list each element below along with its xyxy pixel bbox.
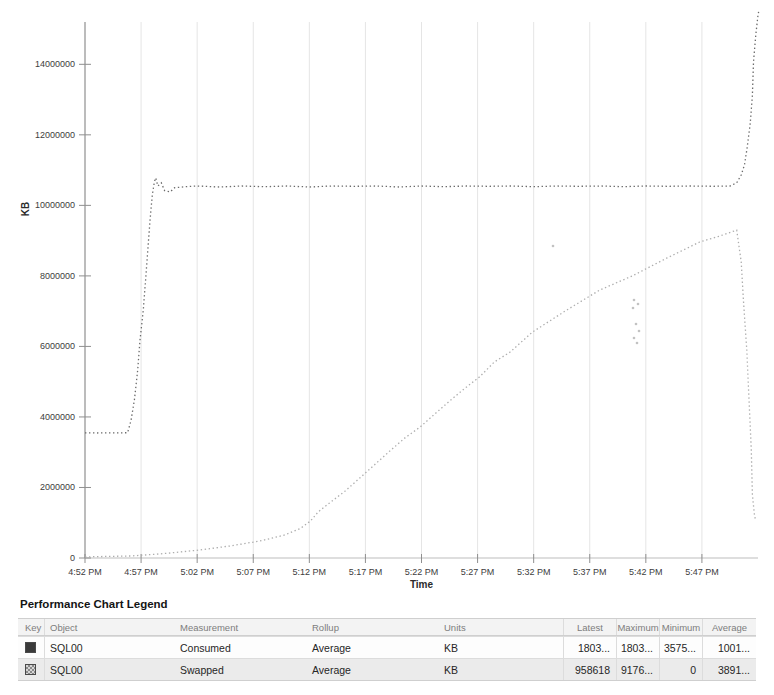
average-cell: 1001... (702, 637, 756, 658)
latest-cell: 958618 (563, 659, 616, 680)
svg-text:5:07 PM: 5:07 PM (236, 567, 270, 577)
units-cell: KB (439, 659, 563, 680)
svg-text:10000000: 10000000 (35, 200, 75, 210)
svg-text:14000000: 14000000 (35, 59, 75, 69)
svg-text:4:57 PM: 4:57 PM (124, 567, 158, 577)
svg-text:6000000: 6000000 (40, 341, 75, 351)
minimum-cell: 0 (659, 659, 702, 680)
key-cell (18, 659, 44, 680)
legend-row-consumed: SQL00 Consumed Average KB 1803... 1803..… (18, 636, 756, 658)
consumed-key-swatch (25, 642, 36, 653)
measurement-cell: Consumed (176, 637, 308, 658)
col-header-key: Key (18, 619, 44, 635)
measurement-cell: Swapped (176, 659, 308, 680)
col-header-latest: Latest (563, 619, 616, 635)
latest-cell: 1803... (563, 637, 616, 658)
key-cell (18, 637, 44, 658)
performance-chart-page: 0200000040000006000000800000010000000120… (0, 0, 774, 695)
svg-text:4000000: 4000000 (40, 412, 75, 422)
rollup-cell: Average (308, 637, 439, 658)
svg-text:8000000: 8000000 (40, 271, 75, 281)
col-header-average: Average (702, 619, 756, 635)
svg-text:5:22 PM: 5:22 PM (405, 567, 439, 577)
svg-text:12000000: 12000000 (35, 130, 75, 140)
object-cell: SQL00 (44, 637, 176, 658)
svg-text:KB: KB (20, 202, 31, 216)
legend-header-row: Key Object Measurement Rollup Units Late… (18, 619, 756, 636)
svg-text:4:52 PM: 4:52 PM (68, 567, 102, 577)
performance-line-chart: 0200000040000006000000800000010000000120… (0, 0, 774, 594)
legend-title: Performance Chart Legend (20, 598, 774, 610)
svg-text:5:12 PM: 5:12 PM (293, 567, 327, 577)
svg-text:5:27 PM: 5:27 PM (461, 567, 495, 577)
svg-text:0: 0 (70, 553, 75, 563)
rollup-cell: Average (308, 659, 439, 680)
svg-text:5:37 PM: 5:37 PM (573, 567, 607, 577)
units-cell: KB (439, 637, 563, 658)
svg-text:Time: Time (410, 579, 434, 590)
svg-text:2000000: 2000000 (40, 482, 75, 492)
col-header-object: Object (44, 619, 176, 635)
svg-text:5:42 PM: 5:42 PM (629, 567, 663, 577)
col-header-minimum: Minimum (659, 619, 702, 635)
svg-text:5:47 PM: 5:47 PM (685, 567, 719, 577)
legend-table: Key Object Measurement Rollup Units Late… (18, 618, 756, 681)
maximum-cell: 1803... (616, 637, 659, 658)
svg-text:5:02 PM: 5:02 PM (180, 567, 214, 577)
maximum-cell: 9176... (616, 659, 659, 680)
col-header-units: Units (439, 619, 563, 635)
col-header-rollup: Rollup (308, 619, 439, 635)
average-cell: 3891... (702, 659, 756, 680)
legend-row-swapped: SQL00 Swapped Average KB 958618 9176... … (18, 658, 756, 680)
minimum-cell: 3575... (659, 637, 702, 658)
col-header-maximum: Maximum (616, 619, 659, 635)
col-header-measurement: Measurement (176, 619, 308, 635)
svg-text:5:17 PM: 5:17 PM (349, 567, 383, 577)
memory-performance-chart: 0200000040000006000000800000010000000120… (0, 0, 774, 594)
object-cell: SQL00 (44, 659, 176, 680)
svg-text:5:32 PM: 5:32 PM (517, 567, 551, 577)
performance-chart-legend: Performance Chart Legend Key Object Meas… (0, 596, 774, 681)
swapped-key-swatch (25, 664, 36, 675)
